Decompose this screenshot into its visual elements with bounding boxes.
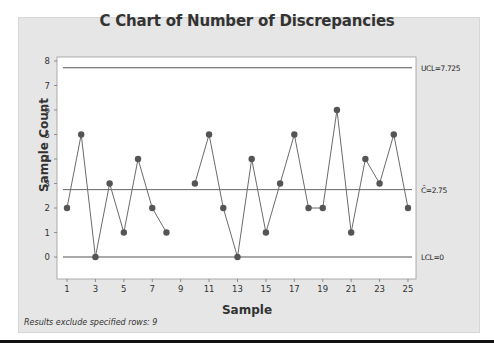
y-tick-label: 1 xyxy=(45,228,50,238)
y-tick-label: 0 xyxy=(45,252,50,262)
data-point xyxy=(163,229,169,235)
y-tick-label: 5 xyxy=(45,130,50,140)
x-tick-label: 5 xyxy=(121,284,126,294)
data-point xyxy=(234,254,240,260)
data-point xyxy=(305,205,311,211)
y-tick-label: 8 xyxy=(45,56,50,66)
y-tick-label: 7 xyxy=(45,81,50,91)
data-point xyxy=(263,229,269,235)
y-tick-label: 3 xyxy=(45,179,50,189)
data-point xyxy=(391,131,397,137)
data-point xyxy=(249,156,255,162)
data-point xyxy=(320,205,326,211)
data-point xyxy=(220,205,226,211)
data-point xyxy=(121,229,127,235)
data-point xyxy=(348,229,354,235)
plot-area xyxy=(57,57,416,279)
lcl-label: LCL=0 xyxy=(421,253,444,262)
data-point xyxy=(192,180,198,186)
x-tick-label: 21 xyxy=(346,284,357,294)
x-tick-label: 19 xyxy=(317,284,328,294)
x-tick-label: 17 xyxy=(289,284,300,294)
data-point xyxy=(362,156,368,162)
data-point xyxy=(277,180,283,186)
x-tick-label: 23 xyxy=(374,284,385,294)
data-point xyxy=(334,107,340,113)
data-point xyxy=(405,205,411,211)
y-tick-label: 6 xyxy=(45,105,50,115)
ucl-label: UCL=7.725 xyxy=(421,64,461,73)
c-chart-plot: 012345678135791113151719212325UCL=7.725C… xyxy=(0,0,494,351)
x-tick-label: 9 xyxy=(178,284,183,294)
x-tick-label: 3 xyxy=(93,284,98,294)
data-point xyxy=(92,254,98,260)
center-label: C̄=2.75 xyxy=(421,185,447,194)
x-tick-label: 13 xyxy=(232,284,243,294)
data-point xyxy=(106,180,112,186)
data-point xyxy=(64,205,70,211)
data-point xyxy=(149,205,155,211)
x-tick-label: 7 xyxy=(150,284,155,294)
data-point xyxy=(376,180,382,186)
y-tick-label: 2 xyxy=(45,203,50,213)
data-point xyxy=(291,131,297,137)
data-point xyxy=(78,131,84,137)
data-point xyxy=(135,156,141,162)
y-tick-label: 4 xyxy=(45,154,50,164)
x-tick-label: 11 xyxy=(204,284,215,294)
x-tick-label: 15 xyxy=(261,284,272,294)
x-tick-label: 1 xyxy=(64,284,69,294)
data-point xyxy=(206,131,212,137)
x-tick-label: 25 xyxy=(403,284,414,294)
